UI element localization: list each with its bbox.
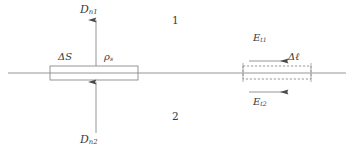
label-d-n2: Dn2 [80, 134, 98, 146]
label-e-t2-subscript: t2 [260, 100, 266, 107]
label-d-n1-subscript: n1 [89, 8, 98, 16]
label-region-1: 1 [172, 14, 179, 26]
label-d-n2-subscript: n2 [89, 138, 98, 146]
label-rho-s: ρs [104, 52, 113, 62]
amperian-loop-rect [243, 66, 311, 79]
label-rho-s-subscript: s [110, 55, 113, 62]
label-delta-s: ΔS [58, 52, 72, 62]
label-d-n1: Dn1 [80, 4, 98, 16]
label-delta-l: Δℓ [288, 52, 299, 62]
label-e-t2: Et2 [253, 97, 267, 107]
label-region-2: 2 [172, 110, 179, 122]
label-e-t1: Et1 [253, 33, 267, 43]
label-d-n2-base: D [80, 133, 89, 146]
figure-canvas: Dn1 Dn2 ΔS ρs 1 2 Et1 Et2 Δℓ [0, 0, 354, 152]
label-d-n1-base: D [80, 3, 89, 16]
label-e-t1-subscript: t1 [260, 36, 266, 43]
